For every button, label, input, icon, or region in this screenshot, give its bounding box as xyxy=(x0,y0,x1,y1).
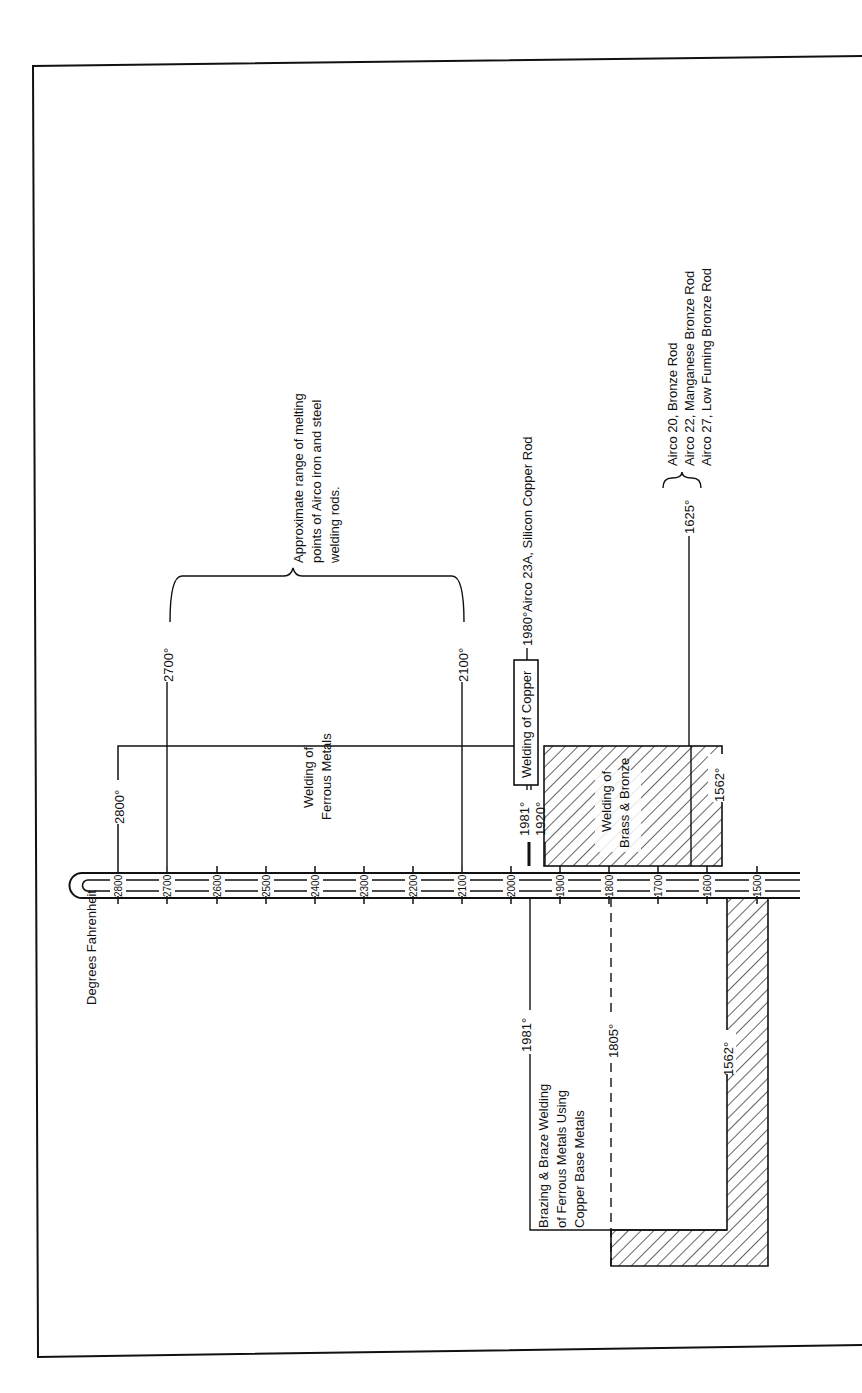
iron-steel-temp-high: 2700° xyxy=(161,648,176,682)
svg-text:2100: 2100 xyxy=(457,874,468,897)
ferrous-label-1: Welding of xyxy=(301,746,316,808)
copper-welding-region: 1981° 1920° Welding of Copper 1980° Airc… xyxy=(514,436,548,866)
iron-steel-note-2: points of Airco iron and steel xyxy=(309,400,324,563)
brass-temp-top: 1920° xyxy=(533,802,548,836)
bronze-rod-2: Airco 22, Manganese Bronze Rod xyxy=(682,271,697,466)
brazing-label-1: Brazing & Braze Welding xyxy=(536,1084,551,1228)
svg-text:2500: 2500 xyxy=(261,874,272,897)
svg-text:2200: 2200 xyxy=(408,874,419,897)
svg-text:2700: 2700 xyxy=(162,874,173,897)
iron-steel-note-3: welding rods. xyxy=(327,486,342,564)
copper-label: Welding of Copper xyxy=(519,670,534,778)
svg-text:2400: 2400 xyxy=(310,874,321,897)
svg-text:2600: 2600 xyxy=(212,874,223,897)
bronze-rod-3: Airco 27, Low Fuming Bronze Rod xyxy=(699,268,714,466)
ferrous-label-2: Ferrous Metals xyxy=(319,733,334,820)
ferrous-temp-label: 2800° xyxy=(112,790,127,824)
svg-text:1900: 1900 xyxy=(555,874,566,897)
axis-title: Degrees Fahrenheit xyxy=(84,890,99,1005)
ferrous-welding-region: 2800° Welding of Ferrous Metals xyxy=(110,733,530,866)
svg-text:2300: 2300 xyxy=(359,874,370,897)
brazing-label-2: of Ferrous Metals Using xyxy=(554,1090,569,1228)
iron-steel-temp-low: 2100° xyxy=(456,648,471,682)
svg-text:1800: 1800 xyxy=(604,874,615,897)
copper-rod-note: Airco 23A, Silicon Copper Rod xyxy=(520,436,535,612)
copper-temp-left: 1981° xyxy=(517,802,532,836)
bronze-rods-temp: 1625° xyxy=(682,500,697,534)
svg-text:2000: 2000 xyxy=(506,874,517,897)
bronze-rod-1: Airco 20, Bronze Rod xyxy=(665,342,680,466)
svg-text:2800: 2800 xyxy=(113,874,124,897)
svg-text:1700: 1700 xyxy=(653,874,664,897)
brazing-temp-top: 1981° xyxy=(519,1018,534,1052)
brass-label-2: Brass & Bronze xyxy=(617,758,632,848)
svg-text:1600: 1600 xyxy=(702,874,713,897)
copper-temp-right: 1980° xyxy=(520,612,535,646)
brazing-region: 1981° 1805° 1562° Brazing & Braze Weldin… xyxy=(515,898,768,1266)
brass-temp-bottom: 1562° xyxy=(712,768,727,802)
svg-text:1500: 1500 xyxy=(752,874,763,897)
brazing-label-3: Copper Base Metals xyxy=(572,1110,587,1228)
brass-bronze-region: Welding of Brass & Bronze 1562° xyxy=(544,746,727,866)
iron-steel-note-1: Approximate range of melting xyxy=(291,393,306,563)
brass-label-1: Welding of xyxy=(599,770,614,832)
brazing-temp-dashed: 1805° xyxy=(606,1024,621,1058)
bronze-rods: 1625° Airco 20, Bronze Rod Airco 22, Man… xyxy=(663,268,714,746)
brazing-temp-bottom: 1562° xyxy=(721,1042,736,1076)
melting-point-diagram: Degrees Fahrenheit 2800 2700 2600 2500 2… xyxy=(0,0,862,1393)
thermometer xyxy=(70,873,801,898)
